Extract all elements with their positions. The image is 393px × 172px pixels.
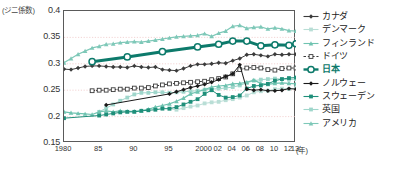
legend-item-germany[interactable]: ドイツ bbox=[303, 49, 393, 62]
legend-item-canada[interactable]: カナダ bbox=[303, 9, 393, 22]
x-axis-tick: 95 bbox=[164, 144, 172, 153]
y-axis-tick: 0.3 bbox=[26, 58, 60, 68]
legend-label: ノルウェー bbox=[322, 76, 366, 89]
x-axis-tick: 08 bbox=[256, 144, 264, 153]
x-axis-tick: 04 bbox=[228, 144, 236, 153]
legend-item-uk[interactable]: 英国 bbox=[303, 102, 393, 115]
x-axis-tick-group: 1980859095200002040608101213(年) bbox=[0, 144, 393, 158]
x-axis-tick: 85 bbox=[94, 144, 102, 153]
y-axis-tick: 0.2 bbox=[26, 111, 60, 121]
legend-item-denmark[interactable]: デンマーク bbox=[303, 22, 393, 35]
legend-marker-diamond-icon bbox=[303, 76, 319, 89]
y-axis-tick: 0.4 bbox=[26, 5, 60, 15]
legend-label: カナダ bbox=[322, 9, 348, 22]
legend-marker-open-circle-icon bbox=[303, 62, 319, 75]
legend-marker-open-square-icon bbox=[303, 49, 319, 62]
legend-item-norway[interactable]: ノルウェー bbox=[303, 75, 393, 88]
legend-item-usa[interactable]: アメリカ bbox=[303, 115, 393, 128]
y-axis-tick: 0.35 bbox=[26, 31, 60, 41]
x-axis-tick: 10 bbox=[270, 144, 278, 153]
x-axis-tick: 1980 bbox=[55, 144, 72, 153]
legend-marker-square-icon bbox=[303, 102, 319, 115]
chart-legend: カナダデンマークフィンランドドイツ日本ノルウェースウェーデン英国アメリカ bbox=[303, 9, 393, 129]
gini-coefficient-chart: (ジニ係数) 0.40.350.30.250.20.15 19808590952… bbox=[0, 0, 393, 172]
legend-label: 日本 bbox=[322, 62, 339, 75]
legend-marker-square-icon bbox=[303, 89, 319, 102]
x-axis-tick: 02 bbox=[213, 144, 221, 153]
legend-label: ドイツ bbox=[322, 49, 348, 62]
x-axis-unit-label: (年) bbox=[296, 144, 308, 155]
legend-item-japan[interactable]: 日本 bbox=[303, 62, 393, 75]
plot-area bbox=[63, 10, 295, 142]
legend-label: アメリカ bbox=[322, 116, 357, 129]
legend-label: 英国 bbox=[322, 102, 339, 115]
x-axis-tick: 06 bbox=[242, 144, 250, 153]
legend-label: スウェーデン bbox=[322, 89, 374, 102]
legend-marker-square-icon bbox=[303, 22, 319, 35]
y-axis-tick: 0.25 bbox=[26, 84, 60, 94]
legend-item-sweden[interactable]: スウェーデン bbox=[303, 89, 393, 102]
x-axis-tick: 2000 bbox=[195, 144, 212, 153]
legend-marker-diamond-icon bbox=[303, 9, 319, 22]
x-axis-tick: 90 bbox=[129, 144, 137, 153]
legend-marker-triangle-icon bbox=[303, 36, 319, 49]
chart-svg bbox=[64, 11, 296, 143]
legend-label: デンマーク bbox=[322, 22, 366, 35]
legend-marker-triangle-icon bbox=[303, 116, 319, 129]
legend-item-finland[interactable]: フィンランド bbox=[303, 36, 393, 49]
legend-label: フィンランド bbox=[322, 36, 374, 49]
